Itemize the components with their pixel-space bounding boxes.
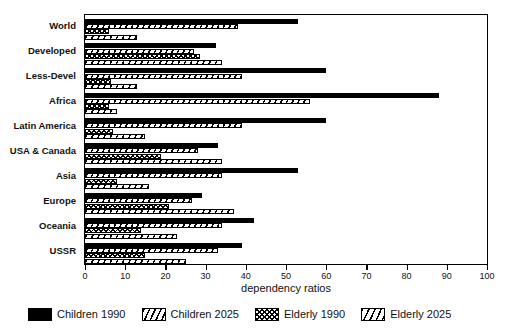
x-tick-label: 30 bbox=[201, 271, 211, 281]
bar-group bbox=[85, 140, 487, 165]
legend-label: Children 2025 bbox=[171, 308, 240, 320]
bar bbox=[85, 218, 254, 223]
x-tick-label: 100 bbox=[479, 271, 494, 281]
x-tick-label: 60 bbox=[321, 271, 331, 281]
legend-label: Elderly 1990 bbox=[284, 308, 345, 320]
category-label: USSR bbox=[0, 246, 76, 256]
x-tick-label: 50 bbox=[281, 271, 291, 281]
bar bbox=[85, 259, 186, 264]
x-tick bbox=[125, 265, 126, 270]
x-tick bbox=[366, 265, 367, 270]
bar-group bbox=[85, 214, 487, 239]
bar bbox=[85, 148, 198, 153]
bar bbox=[85, 243, 242, 248]
category-label: Asia bbox=[0, 171, 76, 181]
bar bbox=[85, 129, 113, 134]
legend-swatch bbox=[28, 308, 52, 321]
bar-group bbox=[85, 239, 487, 264]
bar bbox=[85, 123, 242, 128]
legend-label: Children 1990 bbox=[57, 308, 126, 320]
x-tick-label: 90 bbox=[442, 271, 452, 281]
dependency-ratios-chart: WorldDevelopedLess-DevelAfricaLatin Amer… bbox=[0, 0, 511, 332]
category-label: Europe bbox=[0, 196, 76, 206]
plot-area bbox=[85, 15, 487, 264]
legend-item: Children 1990 bbox=[28, 308, 126, 321]
bar bbox=[85, 179, 117, 184]
x-tick-label: 10 bbox=[120, 271, 130, 281]
bar bbox=[85, 154, 161, 159]
bar bbox=[85, 19, 298, 24]
bar bbox=[85, 74, 242, 79]
bar bbox=[85, 253, 145, 258]
x-tick bbox=[165, 265, 166, 270]
bar bbox=[85, 193, 202, 198]
category-label: USA & Canada bbox=[0, 146, 76, 156]
bar bbox=[85, 168, 298, 173]
x-tick bbox=[326, 265, 327, 270]
legend-item: Elderly 1990 bbox=[255, 308, 345, 321]
bar-group bbox=[85, 40, 487, 65]
category-label: Latin America bbox=[0, 121, 76, 131]
bar-group bbox=[85, 90, 487, 115]
bar-group bbox=[85, 115, 487, 140]
legend-label: Elderly 2025 bbox=[390, 308, 451, 320]
x-tick-label: 70 bbox=[361, 271, 371, 281]
category-label: Less-Devel bbox=[0, 71, 76, 81]
category-label: Africa bbox=[0, 96, 76, 106]
bar bbox=[85, 248, 218, 253]
bar bbox=[85, 198, 192, 203]
category-label: World bbox=[0, 21, 76, 31]
bar bbox=[85, 228, 141, 233]
bar bbox=[85, 24, 238, 29]
legend-swatch bbox=[361, 308, 385, 321]
bar bbox=[85, 54, 200, 59]
bar bbox=[85, 79, 111, 84]
bar bbox=[85, 99, 310, 104]
bar bbox=[85, 29, 109, 34]
bar-group bbox=[85, 15, 487, 40]
legend-item: Children 2025 bbox=[142, 308, 240, 321]
x-tick bbox=[487, 265, 488, 270]
category-label: Oceania bbox=[0, 221, 76, 231]
chart-legend: Children 1990Children 2025Elderly 1990El… bbox=[28, 303, 498, 325]
bar bbox=[85, 223, 222, 228]
x-tick bbox=[206, 265, 207, 270]
legend-swatch bbox=[142, 308, 166, 321]
bar bbox=[85, 173, 222, 178]
bar bbox=[85, 49, 194, 54]
bar-group bbox=[85, 164, 487, 189]
x-axis-title: dependency ratios bbox=[85, 282, 487, 294]
x-tick-label: 40 bbox=[241, 271, 251, 281]
x-tick bbox=[85, 265, 86, 270]
x-tick bbox=[407, 265, 408, 270]
bar bbox=[85, 93, 439, 98]
x-tick bbox=[246, 265, 247, 270]
category-label: Developed bbox=[0, 46, 76, 56]
x-tick bbox=[447, 265, 448, 270]
bar bbox=[85, 43, 216, 48]
x-tick bbox=[286, 265, 287, 270]
bar bbox=[85, 68, 326, 73]
bar bbox=[85, 143, 218, 148]
bar-group bbox=[85, 189, 487, 214]
bar bbox=[85, 118, 326, 123]
x-tick-label: 80 bbox=[402, 271, 412, 281]
legend-item: Elderly 2025 bbox=[361, 308, 451, 321]
x-tick-label: 20 bbox=[160, 271, 170, 281]
bar bbox=[85, 204, 169, 209]
x-tick-label: 0 bbox=[82, 271, 87, 281]
legend-swatch bbox=[255, 308, 279, 321]
bar-group bbox=[85, 65, 487, 90]
bar bbox=[85, 104, 109, 109]
category-axis-labels: WorldDevelopedLess-DevelAfricaLatin Amer… bbox=[0, 14, 80, 264]
